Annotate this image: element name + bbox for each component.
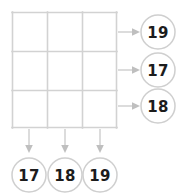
grid-cell-r0c0[interactable] <box>12 12 47 51</box>
column-clue-bubble-2[interactable]: 19 <box>83 158 117 192</box>
column-clue-bubble-1[interactable]: 18 <box>48 158 82 192</box>
grid-cell-r2c2[interactable] <box>82 90 117 128</box>
arrow-down-icon-col-2 <box>96 129 104 153</box>
row-clue-label-0: 19 <box>147 24 169 42</box>
arrow-right-icon-row-1 <box>118 66 140 74</box>
row-clue-bubble-2[interactable]: 18 <box>141 89 175 123</box>
row-clue-bubbles: 19 17 18 <box>141 15 175 123</box>
column-clue-label-0: 17 <box>18 167 40 185</box>
row-clue-bubble-0[interactable]: 19 <box>141 15 175 49</box>
arrow-down-icon-col-0 <box>25 129 33 153</box>
column-clue-label-1: 18 <box>54 167 76 185</box>
grid-cell-r2c0[interactable] <box>12 90 47 128</box>
row-clue-bubble-1[interactable]: 17 <box>141 53 175 87</box>
grid <box>12 12 117 128</box>
row-arrows <box>118 28 140 110</box>
grid-cell-r0c2[interactable] <box>82 12 117 51</box>
arrow-right-icon-row-0 <box>118 28 140 36</box>
grid-cell-r0c1[interactable] <box>47 12 82 51</box>
grid-cell-r1c2[interactable] <box>82 51 117 90</box>
grid-cell-r1c0[interactable] <box>12 51 47 90</box>
arrow-right-icon-row-2 <box>118 102 140 110</box>
arrow-down-icon-col-1 <box>61 129 69 153</box>
grid-cell-r1c1[interactable] <box>47 51 82 90</box>
row-clue-label-1: 17 <box>147 62 169 80</box>
puzzle-canvas: 19 17 18 17 18 19 <box>0 0 188 196</box>
column-arrows <box>25 129 104 153</box>
column-clue-bubble-0[interactable]: 17 <box>12 158 46 192</box>
row-clue-label-2: 18 <box>147 98 169 116</box>
sum-grid-puzzle: 19 17 18 17 18 19 <box>0 0 188 196</box>
column-clue-bubbles: 17 18 19 <box>12 158 117 192</box>
grid-cell-r2c1[interactable] <box>47 90 82 128</box>
column-clue-label-2: 19 <box>89 167 111 185</box>
